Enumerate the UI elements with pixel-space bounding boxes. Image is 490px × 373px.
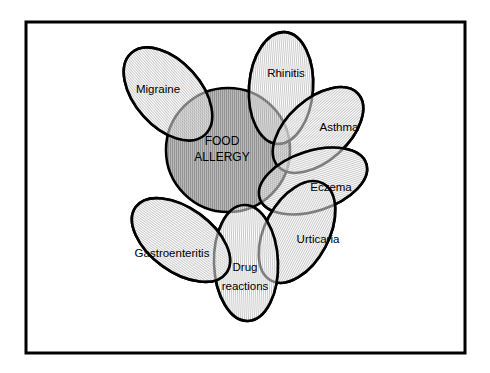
label-gastroenteritis: Gastroenteritis xyxy=(135,247,210,259)
core-label-line1: FOOD xyxy=(205,134,240,148)
label-asthma: Asthma xyxy=(320,121,360,133)
label-eczema: Eczema xyxy=(310,181,352,193)
label-rhinitis: Rhinitis xyxy=(267,67,305,79)
label-drug-reactions-line2: reactions xyxy=(222,280,269,292)
core-label-line2: ALLERGY xyxy=(194,150,249,164)
label-migraine: Migraine xyxy=(136,83,180,95)
venn-diagram-canvas: FOOD ALLERGY Migraine Rhinitis Asthma Ec… xyxy=(0,0,490,373)
label-urticaria: Urticaria xyxy=(297,233,340,245)
label-drug-reactions-line1: Drug xyxy=(233,261,258,273)
figure-root: FOOD ALLERGY Migraine Rhinitis Asthma Ec… xyxy=(0,0,490,373)
